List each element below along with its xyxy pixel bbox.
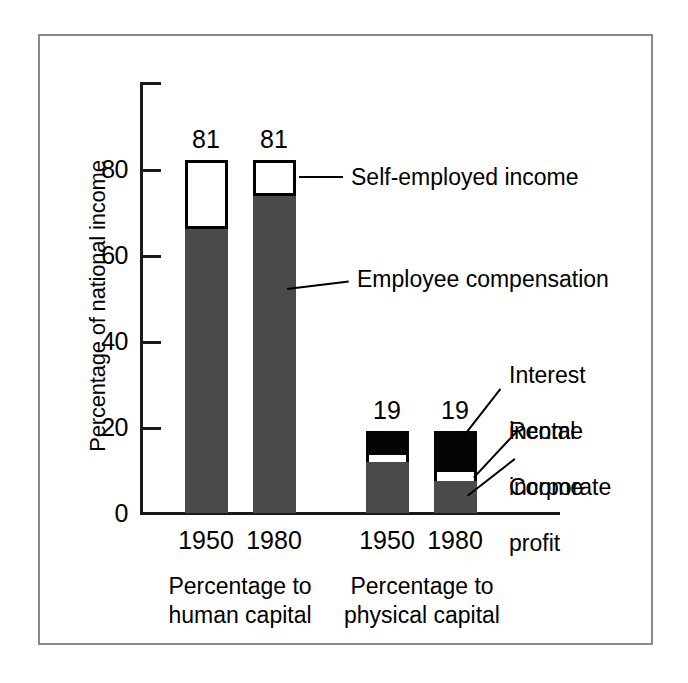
annotation-corporate-profit: Corporate profit	[509, 445, 611, 585]
leader-line-self-employed-income	[299, 176, 343, 178]
y-axis-tick-80	[140, 169, 161, 172]
bar-segment-employee-compensation[interactable]	[185, 229, 228, 513]
annotation-interest-line1: Interest	[509, 361, 586, 389]
annotation-corporate-line1: Corporate	[509, 473, 611, 501]
group-label-physical-line1: Percentage to	[312, 572, 532, 601]
bar-segment-corporate-profit[interactable]	[366, 462, 409, 513]
chart-plot-area: 80 60 40 20 0 Percentage of national inc…	[0, 0, 688, 683]
bar-segment-rental-income[interactable]	[366, 455, 409, 462]
annotation-corporate-line2: profit	[509, 529, 611, 557]
bar-segment-interest-income[interactable]	[366, 431, 409, 455]
bar-segment-employee-compensation[interactable]	[253, 196, 296, 513]
y-axis-title: Percentage of national income	[87, 126, 109, 486]
x-label-1980-physical: 1980	[410, 528, 500, 553]
x-label-1980-human: 1980	[229, 528, 319, 553]
leader-line-employee-compensation	[287, 280, 349, 290]
bar-segment-interest-income[interactable]	[434, 431, 477, 472]
y-axis-label-0: 0	[68, 501, 128, 526]
bar-1980-human-capital[interactable]	[253, 160, 296, 513]
y-axis-tick-20	[140, 427, 161, 430]
bar-segment-rental-income[interactable]	[434, 472, 477, 481]
bar-1980-physical-capital[interactable]	[434, 431, 477, 513]
bar-1950-human-capital[interactable]	[185, 160, 228, 513]
y-axis-tick-40	[140, 341, 161, 344]
y-axis-tick-top-cap	[140, 82, 161, 85]
annotation-rental-line1: Rental	[509, 417, 583, 445]
y-axis-tick-60	[140, 255, 161, 258]
annotation-self-employed-income: Self-employed income	[351, 163, 579, 191]
bar-segment-self-employed-income[interactable]	[253, 160, 296, 196]
group-label-physical-capital: Percentage to physical capital	[312, 572, 532, 630]
bar-1950-physical-capital[interactable]	[366, 431, 409, 513]
bar-segment-corporate-profit[interactable]	[434, 481, 477, 513]
annotation-employee-compensation: Employee compensation	[357, 265, 609, 293]
group-label-physical-line2: physical capital	[312, 601, 532, 630]
y-axis-line	[140, 82, 143, 515]
bar-segment-self-employed-income[interactable]	[185, 160, 228, 229]
bar-total-label-1980-human: 81	[234, 127, 314, 152]
